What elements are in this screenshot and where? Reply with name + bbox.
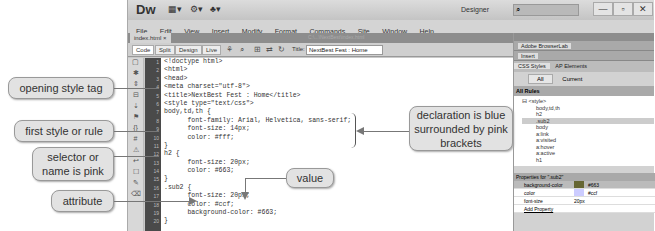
search-input[interactable]: ⌕ bbox=[513, 4, 579, 16]
open-documents-icon[interactable]: ▢ bbox=[128, 58, 143, 69]
menu-bar: File Edit View Insert Modify Format Comm… bbox=[128, 20, 654, 33]
tab-index-html[interactable]: index.html × bbox=[130, 33, 171, 43]
code-line[interactable]: <meta charset="utf-8"> bbox=[161, 83, 513, 91]
minimize-button[interactable]: — bbox=[593, 2, 613, 16]
callout-leader bbox=[245, 178, 286, 179]
properties-pane: Properties for ".sub2" background-color … bbox=[514, 173, 655, 213]
callout-attribute: attribute bbox=[51, 190, 114, 212]
design-view-button[interactable]: Design bbox=[175, 45, 202, 55]
dw-logo: Dw bbox=[136, 2, 156, 17]
callout-declaration: declaration is blue surrounded by pink b… bbox=[409, 106, 513, 151]
word-wrap-icon[interactable]: ↩ bbox=[128, 157, 143, 168]
property-name: font-size bbox=[514, 197, 574, 204]
line-number: 20 bbox=[145, 217, 161, 225]
line-number: 11 bbox=[145, 142, 161, 150]
line-number: 16 bbox=[145, 184, 161, 192]
workspace-switcher[interactable]: Designer bbox=[461, 6, 489, 13]
code-line[interactable]: color: #ccf; bbox=[161, 201, 513, 209]
add-property-label[interactable]: Add Property bbox=[514, 205, 574, 212]
remove-comment-icon[interactable]: ⌫ bbox=[128, 190, 143, 201]
dreamweaver-window: Dw ▦▾ ⚙▾ ♣▾ Designer ⌕ — ▫ ✕ File Edit V… bbox=[127, 0, 653, 231]
code-line[interactable]: <head> bbox=[161, 75, 513, 83]
panel-adobe-browserlab[interactable]: Adobe BrowserLab bbox=[514, 41, 654, 51]
split-view-button[interactable]: Split bbox=[155, 45, 175, 55]
line-number: 8 bbox=[145, 117, 161, 125]
properties-header: Properties for ".sub2" bbox=[514, 173, 655, 181]
restore-button[interactable]: ▫ bbox=[613, 2, 633, 16]
tab-ap-elements[interactable]: AP Elements bbox=[551, 63, 591, 69]
code-line[interactable]: font-size: 20px; bbox=[161, 159, 513, 167]
code-line[interactable]: h2 { bbox=[161, 150, 513, 158]
code-line[interactable]: background-color: #663; bbox=[161, 209, 513, 217]
code-line[interactable]: .sub2 { bbox=[161, 184, 513, 192]
line-number: 6 bbox=[145, 100, 161, 108]
balance-braces-icon[interactable]: {} bbox=[128, 124, 143, 135]
document-tab-bar: index.html × C:\...\NextBest\index.html bbox=[128, 33, 513, 43]
rule-item[interactable]: h1 bbox=[522, 157, 654, 164]
code-line[interactable]: <html> bbox=[161, 66, 513, 74]
line-number: 1 bbox=[145, 58, 161, 66]
live-view-button[interactable]: Live bbox=[202, 45, 221, 55]
line-number: 12 bbox=[145, 150, 161, 158]
callout-leader bbox=[114, 88, 159, 89]
show-code-navigator-icon[interactable]: ✱ bbox=[128, 69, 143, 80]
property-value: #ccf bbox=[588, 189, 597, 197]
preview-icon[interactable]: ⇄ bbox=[266, 45, 273, 54]
apply-comment-icon[interactable]: ✎ bbox=[128, 179, 143, 190]
arrow-icon bbox=[241, 192, 249, 200]
tab-css-styles[interactable]: CSS Styles bbox=[514, 63, 550, 69]
document-title-input[interactable]: NextBest Fest : Home bbox=[306, 45, 383, 55]
panel-group: Adobe BrowserLab Insert CSS Styles AP El… bbox=[513, 33, 654, 231]
code-line[interactable]: } bbox=[161, 175, 513, 183]
line-number: 9 bbox=[145, 125, 161, 133]
css-panel-tabs: CSS Styles AP Elements bbox=[514, 61, 654, 72]
title-bar: Dw ▦▾ ⚙▾ ♣▾ Designer ⌕ — ▫ ✕ bbox=[128, 0, 654, 20]
line-number: 17 bbox=[145, 192, 161, 200]
code-line[interactable]: color: #663; bbox=[161, 167, 513, 175]
gear-icon[interactable]: ⚙▾ bbox=[190, 4, 203, 14]
color-swatch[interactable] bbox=[574, 189, 584, 196]
property-row[interactable]: font-size 20px bbox=[514, 197, 655, 205]
line-number: 10 bbox=[145, 134, 161, 142]
inspect-icon[interactable]: ⌕ bbox=[240, 45, 244, 55]
panel-insert[interactable]: Insert bbox=[514, 51, 654, 61]
property-row[interactable]: background-color #663 bbox=[514, 181, 655, 189]
refresh-icon[interactable]: ↻ bbox=[278, 45, 285, 54]
property-name: color bbox=[514, 189, 574, 196]
expand-all-icon[interactable]: ⇣ bbox=[128, 102, 143, 113]
callout-opening-style-tag: opening style tag bbox=[8, 77, 114, 99]
code-view-button[interactable]: Code bbox=[132, 45, 154, 55]
rules-tree: ⊟ <style> body,td,th h2 .sub2 body a:lin… bbox=[514, 96, 654, 166]
select-parent-tag-icon[interactable]: ⚑ bbox=[128, 113, 143, 124]
callout-leader bbox=[362, 131, 409, 132]
code-line[interactable]: <!doctype html> bbox=[161, 58, 513, 66]
close-button[interactable]: ✕ bbox=[633, 2, 653, 16]
multiscreen-icon[interactable]: ⊞ bbox=[254, 45, 261, 54]
live-code-icon[interactable]: ⚘ bbox=[226, 45, 233, 54]
callout-leader bbox=[114, 131, 159, 132]
collapse-tag-icon[interactable]: ⇕ bbox=[128, 80, 143, 91]
syntax-errors-icon[interactable]: ☐ bbox=[128, 168, 143, 179]
code-line[interactable]: } bbox=[161, 217, 513, 225]
line-number: 19 bbox=[145, 209, 161, 217]
brace-icon bbox=[351, 113, 356, 148]
all-button[interactable]: All bbox=[528, 74, 553, 84]
title-label: Title: bbox=[292, 46, 305, 52]
code-line[interactable]: font-size: 20px; bbox=[161, 192, 513, 200]
document-toolbar: Code Split Design Live ⚘ ⌕ ⊞ ⇄ ↻ Title: … bbox=[128, 43, 513, 57]
coding-toolbar: ▢ ✱ ⇕ ⊟ ⇣ ⚑ {} # ⚠ ↩ ☐ ✎ ⌫ bbox=[128, 58, 144, 231]
line-number: 2 bbox=[145, 66, 161, 74]
current-button[interactable]: Current bbox=[554, 75, 590, 83]
add-property-link[interactable]: Add Property bbox=[514, 205, 655, 213]
layout-icon[interactable]: ▦▾ bbox=[168, 4, 182, 14]
code-line[interactable]: <title>NextBest Fest : Home</title> bbox=[161, 92, 513, 100]
line-numbers-icon[interactable]: # bbox=[128, 135, 143, 146]
property-value: #663 bbox=[588, 181, 599, 189]
color-swatch[interactable] bbox=[574, 181, 584, 188]
line-number: 13 bbox=[145, 159, 161, 167]
sync-icon[interactable]: ♣▾ bbox=[210, 4, 221, 14]
collapse-selection-icon[interactable]: ⊟ bbox=[128, 91, 143, 102]
panel-header bbox=[514, 33, 654, 41]
line-number: 3 bbox=[145, 75, 161, 83]
arrow-icon bbox=[189, 197, 197, 205]
